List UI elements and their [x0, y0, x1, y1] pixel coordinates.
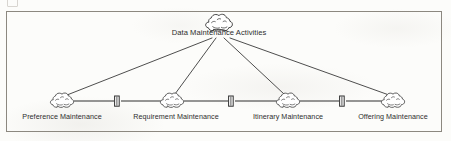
node-label-offering-maintenance: Offering Maintenance — [358, 113, 428, 120]
node-label-preference-maintenance: Preference Maintenance — [22, 113, 101, 120]
edge-root-to-requirement — [175, 38, 216, 94]
node-requirement-maintenance[interactable] — [160, 93, 183, 107]
cloud-icon — [381, 93, 404, 107]
cloud-icon — [160, 93, 183, 107]
cloud-icon — [50, 93, 73, 107]
node-offering-maintenance[interactable] — [381, 93, 404, 107]
edge-root-to-offering — [230, 38, 389, 95]
node-itinerary-maintenance[interactable] — [276, 93, 299, 107]
root-node-label: Data Maintenance Activities — [172, 29, 267, 37]
edge-root-to-preference — [67, 38, 212, 95]
diagram-canvas: Data Maintenance Activities Preference M… — [0, 0, 451, 141]
node-label-itinerary-maintenance: Itinerary Maintenance — [253, 113, 323, 120]
tree-edges — [67, 38, 389, 95]
node-preference-maintenance[interactable] — [50, 93, 73, 107]
cloud-icon — [276, 93, 299, 107]
node-label-requirement-maintenance: Requirement Maintenance — [133, 113, 218, 120]
